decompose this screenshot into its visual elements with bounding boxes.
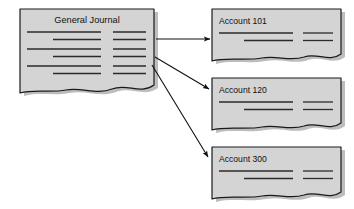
posting-arrows xyxy=(152,39,210,157)
account-120-title: Account 120 xyxy=(219,85,267,95)
account-300-document: Account 300 xyxy=(212,147,345,202)
general-journal-document: General Journal xyxy=(20,9,158,96)
arrow-journal-to-account-300 xyxy=(152,65,208,157)
account-120-document: Account 120 xyxy=(212,78,345,133)
general-journal-title: General Journal xyxy=(54,15,119,25)
account-101-title: Account 101 xyxy=(219,16,267,26)
account-101-document: Account 101 xyxy=(212,9,345,64)
posting-flow-diagram: General Journal xyxy=(0,0,354,209)
diagram-canvas: General Journal xyxy=(0,0,354,209)
account-300-title: Account 300 xyxy=(219,154,267,164)
